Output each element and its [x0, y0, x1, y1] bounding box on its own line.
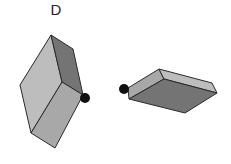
left-slab-marker-dot — [80, 93, 90, 103]
right-slab-marker-dot — [119, 84, 129, 94]
right-slab — [128, 69, 217, 113]
left-slab — [20, 35, 83, 148]
figure-canvas — [0, 0, 231, 164]
